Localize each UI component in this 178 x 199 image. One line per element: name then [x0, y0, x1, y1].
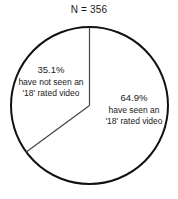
pie-chart-figure: N = 356 35.1% have not seen an '18' rate…: [0, 0, 178, 199]
slice-label-not-seen: 35.1% have not seen an '18' rated video: [9, 64, 93, 99]
slice-percent-seen: 64.9%: [93, 92, 175, 103]
slice-desc-not-seen-line2: '18' rated video: [9, 88, 93, 99]
slice-percent-not-seen: 35.1%: [9, 64, 93, 75]
slice-desc-not-seen-line1: have not seen an: [9, 77, 93, 88]
slice-label-seen: 64.9% have seen an '18' rated video: [93, 92, 175, 127]
slice-desc-seen-line1: have seen an: [93, 105, 175, 116]
slice-desc-seen-line2: '18' rated video: [93, 116, 175, 127]
